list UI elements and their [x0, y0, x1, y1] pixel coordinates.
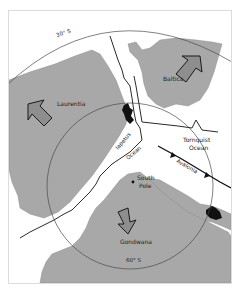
label-tornquist-line2: Ocean — [189, 144, 208, 151]
label-gondwana: Gondwana — [120, 238, 152, 245]
paleogeographic-map: 30° S 60° S Laurentia Baltica Gondwana A… — [0, 0, 243, 290]
label-60s: 60° S — [126, 257, 141, 263]
south-pole-marker — [132, 181, 135, 184]
label-south-pole-line2: Pole — [139, 182, 152, 189]
label-laurentia: Laurentia — [57, 100, 86, 107]
label-baltica: Baltica — [163, 75, 184, 82]
label-south-pole-line1: South — [137, 174, 155, 181]
label-tornquist-line1: Tornquist — [182, 136, 211, 144]
